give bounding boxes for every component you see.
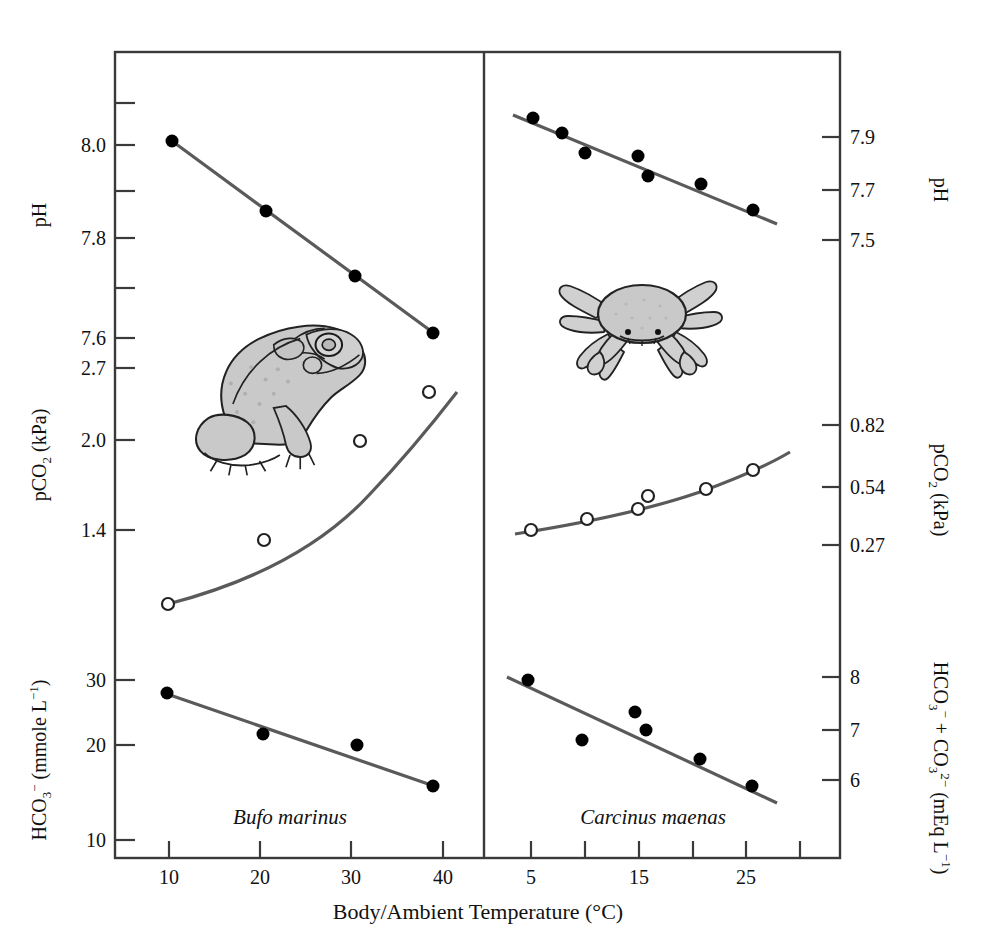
- datapoint: [351, 739, 364, 752]
- datapoint: [747, 464, 759, 476]
- ytick-right-ph-7_7: 7.7: [850, 179, 875, 201]
- datapoint: [632, 503, 644, 515]
- ytick-right-pco2-0_27: 0.27: [850, 534, 885, 556]
- axis-label-pco2-right: pCO2 (kPa): [926, 444, 952, 537]
- ytick-right-hco3-6: 6: [850, 769, 860, 791]
- x-axis-ticks-right: [531, 841, 800, 858]
- datapoint: [556, 127, 569, 140]
- datapoint: [640, 724, 653, 737]
- xtick-left-30: 30: [341, 866, 361, 888]
- datapoint: [166, 135, 179, 148]
- datapoint: [579, 147, 592, 160]
- ytick-right-hco3-7: 7: [850, 719, 860, 741]
- ytick-left-hco3-10: 10: [86, 829, 106, 851]
- ytick-right-pco2-0_54: 0.54: [850, 476, 885, 498]
- ytick-right-pco2-0_82: 0.82: [850, 414, 885, 436]
- datapoint: [581, 513, 593, 525]
- datapoint: [423, 386, 435, 398]
- xtick-left-40: 40: [433, 866, 453, 888]
- datapoint: [522, 674, 535, 687]
- axis-label-ph-right: pH: [929, 178, 952, 202]
- datapoints-carcinus-hco3: [522, 674, 759, 793]
- ytick-left-ph-7_6: 7.6: [81, 327, 106, 349]
- xtick-left-10: 10: [159, 866, 179, 888]
- xtick-right-5: 5: [526, 866, 536, 888]
- ytick-left-pco2-2_0: 2.0: [81, 429, 106, 451]
- ytick-left-hco3-30: 30: [86, 669, 106, 691]
- series-bufo-ph: [166, 135, 440, 340]
- datapoint: [746, 780, 759, 793]
- x-axis-ticks-left: [169, 841, 443, 858]
- datapoint: [694, 753, 707, 766]
- crab-illustration: [559, 281, 722, 379]
- ytick-left-pco2-1_4: 1.4: [81, 519, 106, 541]
- ytick-left-ph-7_8: 7.8: [81, 227, 106, 249]
- xtick-right-15: 15: [629, 866, 649, 888]
- species-label-bufo: Bufo marinus: [233, 805, 347, 829]
- toad-illustration: [196, 326, 365, 476]
- datapoint: [629, 706, 642, 719]
- datapoint: [642, 490, 654, 502]
- species-label-carcinus: Carcinus maenas: [580, 805, 726, 829]
- svg-text:pCO2 (kPa): pCO2 (kPa): [28, 409, 54, 502]
- datapoint: [576, 734, 589, 747]
- datapoint: [527, 112, 540, 125]
- svg-text:HCO3− + CO32− (mEq L−1): HCO3− + CO32− (mEq L−1): [926, 662, 954, 875]
- datapoint: [260, 205, 273, 218]
- series-carcinus-ph: [513, 112, 777, 225]
- datapoint: [257, 728, 270, 741]
- ytick-left-pco2-2_7: 2.7: [81, 357, 106, 379]
- datapoint: [162, 598, 174, 610]
- datapoint: [695, 178, 708, 191]
- datapoint: [427, 327, 440, 340]
- datapoint: [349, 270, 362, 283]
- figure-root: 8.0 7.8 7.6 2.7 2.0 1.4 30 20 10 pH pCO2…: [0, 0, 986, 933]
- figure-svg: 8.0 7.8 7.6 2.7 2.0 1.4 30 20 10 pH pCO2…: [0, 0, 986, 933]
- axis-label-pco2-left: pCO2 (kPa): [28, 409, 54, 502]
- left-axis-ticks: [115, 103, 135, 840]
- axis-label-hco3-right: HCO3− + CO32− (mEq L−1): [926, 662, 954, 875]
- xtick-left-20: 20: [250, 866, 270, 888]
- ytick-left-hco3-20: 20: [86, 734, 106, 756]
- datapoint: [161, 687, 174, 700]
- ytick-right-ph-7_5: 7.5: [850, 229, 875, 251]
- series-bufo-hco3: [161, 687, 440, 793]
- right-axis-ticks: [822, 137, 840, 780]
- svg-text:HCO3− (mmole L−1): HCO3− (mmole L−1): [26, 679, 54, 840]
- series-carcinus-pco2: [515, 452, 790, 536]
- datapoint: [700, 483, 712, 495]
- ytick-right-ph-7_9: 7.9: [850, 126, 875, 148]
- datapoint: [632, 150, 645, 163]
- axis-label-ph-left: pH: [28, 203, 51, 227]
- ytick-right-hco3-8: 8: [850, 666, 860, 688]
- xtick-right-25: 25: [736, 866, 756, 888]
- axis-label-hco3-left: HCO3− (mmole L−1): [26, 679, 54, 840]
- datapoint: [427, 780, 440, 793]
- datapoint: [258, 534, 270, 546]
- ytick-left-ph-8_0: 8.0: [81, 134, 106, 156]
- series-carcinus-hco3: [507, 674, 777, 804]
- datapoint: [747, 204, 760, 217]
- x-axis-label: Body/Ambient Temperature (°C): [333, 899, 623, 924]
- datapoint: [354, 435, 366, 447]
- svg-text:pCO2 (kPa): pCO2 (kPa): [926, 444, 952, 537]
- datapoint: [642, 170, 655, 183]
- datapoint: [525, 524, 537, 536]
